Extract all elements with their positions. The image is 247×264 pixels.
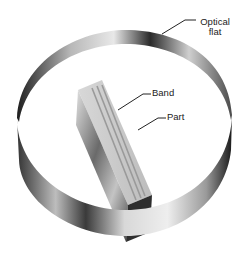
optical-flat-leader xyxy=(162,20,196,34)
optical-flat-label: Optical flat xyxy=(198,17,232,37)
band-leader xyxy=(118,94,151,110)
optical-flat-diagram xyxy=(0,0,247,264)
part-label: Part xyxy=(167,112,184,122)
band-label: Band xyxy=(152,88,174,98)
part-leader xyxy=(138,118,166,130)
optical-flat-ring-back xyxy=(17,30,232,122)
optical-flat-label-line2: flat xyxy=(198,27,232,37)
